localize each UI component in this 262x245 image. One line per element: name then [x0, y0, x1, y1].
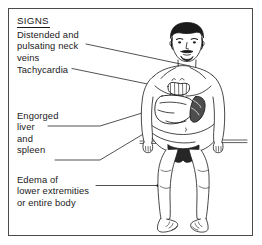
callout-label-engorged-liver-and-spleen: Engorged liver and spleen — [17, 110, 58, 156]
patient-legs — [157, 150, 209, 233]
heading-underline — [17, 27, 50, 28]
signs-illustration-panel: SIGNS Distended and pulsating neck veins… — [0, 0, 262, 245]
page-title: SIGNS — [17, 15, 49, 26]
callout-label-neck-veins: Distended and pulsating neck veins — [17, 29, 79, 63]
callout-label-edema: Edema of lower extremities or entire bod… — [17, 174, 89, 208]
callout-label-tachycardia: Tachycardia — [17, 64, 68, 75]
